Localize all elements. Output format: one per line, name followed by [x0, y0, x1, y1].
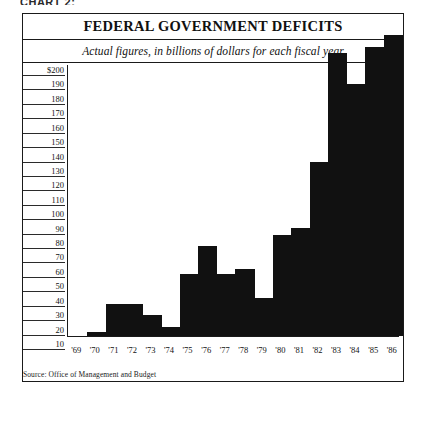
y-axis-tick-label: 100 [51, 210, 65, 219]
y-axis-tick-label: 180 [51, 95, 65, 104]
y-axis-tick-label: 190 [51, 80, 65, 89]
bar [310, 162, 329, 336]
chart-title-band: FEDERAL GOVERNMENT DEFICITS [23, 14, 403, 40]
y-axis-tick: 70 [23, 253, 65, 263]
x-axis-tick-label: '84 [345, 345, 364, 355]
y-axis-tick: 80 [23, 239, 65, 249]
y-axis-tick: 190 [23, 80, 65, 90]
x-axis-tick-label: '77 [215, 345, 234, 355]
y-axis-labels: $200190180170160150140130120110100908070… [23, 63, 67, 363]
y-axis-tick-label: 10 [56, 340, 66, 349]
y-axis-tick-label: 70 [56, 253, 66, 262]
chart-frame: FEDERAL GOVERNMENT DEFICITS Actual figur… [22, 13, 404, 382]
y-axis-tick: 20 [23, 326, 65, 336]
bar [124, 304, 143, 335]
y-axis-tick-label: $200 [47, 66, 65, 75]
bar [365, 47, 384, 335]
bar [217, 274, 236, 335]
y-axis-tick: 60 [23, 268, 65, 278]
bar [384, 35, 403, 336]
x-axis-tick-label: '70 [86, 345, 105, 355]
bar [347, 84, 366, 336]
x-axis-tick-label: '85 [364, 345, 383, 355]
y-axis-tick-label: 50 [56, 282, 66, 291]
x-axis-tick-label: '78 [234, 345, 253, 355]
x-axis-tick-label: '82 [308, 345, 327, 355]
y-axis-tick-label: 30 [56, 311, 66, 320]
y-axis-tick: 50 [23, 282, 65, 292]
y-axis-tick-label: 90 [56, 225, 66, 234]
bar [161, 327, 180, 335]
x-axis-tick-label: '86 [382, 345, 401, 355]
bar [198, 246, 217, 336]
x-axis-line [67, 336, 399, 337]
y-axis-tick-label: 120 [51, 181, 65, 190]
y-axis-tick: 150 [23, 138, 65, 148]
x-axis-tick-label: '73 [141, 345, 160, 355]
y-axis-tick-label: 140 [51, 153, 65, 162]
bar [106, 304, 125, 335]
y-axis-tick: 110 [23, 196, 65, 206]
y-axis-tick-label: 170 [51, 109, 65, 118]
y-axis-tick: 170 [23, 109, 65, 119]
x-axis-tick-label: '72 [123, 345, 142, 355]
y-axis-tick: 140 [23, 153, 65, 163]
bar [87, 332, 106, 336]
y-axis-tick-label: 40 [56, 297, 66, 306]
x-axis-tick-label: '69 [67, 345, 86, 355]
bar-series [68, 64, 399, 336]
y-axis-tick: 130 [23, 167, 65, 177]
x-axis-tick-label: '81 [290, 345, 309, 355]
bar [143, 315, 162, 335]
y-axis-tick: $200 [23, 66, 65, 76]
x-axis-tick-label: '74 [160, 345, 179, 355]
y-axis-tick-label: 20 [56, 326, 66, 335]
y-axis-tick: 100 [23, 210, 65, 220]
y-axis-tick-label: 160 [51, 124, 65, 133]
figure-caption: CHART 2: [20, 0, 75, 5]
y-axis-tick-label: 150 [51, 138, 65, 147]
y-axis-tick: 10 [23, 340, 65, 350]
chart-screenshot: CHART 2: FEDERAL GOVERNMENT DEFICITS Act… [0, 0, 422, 423]
x-axis-tick-label: '79 [253, 345, 272, 355]
chart-subtitle: Actual figures, in billions of dollars f… [82, 45, 344, 57]
y-axis-tick: 180 [23, 95, 65, 105]
y-axis-tick-label: 110 [52, 196, 65, 205]
x-axis-tick-label: '76 [197, 345, 216, 355]
x-axis-tick-label: '80 [271, 345, 290, 355]
bar [328, 53, 347, 336]
y-axis-tick-label: 80 [56, 239, 66, 248]
bar [273, 235, 292, 336]
x-axis-tick-label: '75 [178, 345, 197, 355]
plot-area: $200190180170160150140130120110100908070… [23, 63, 403, 381]
y-axis-tick: 90 [23, 225, 65, 235]
axis-lines [67, 63, 401, 381]
bar [235, 269, 254, 336]
bar [291, 228, 310, 335]
source-note: Source: Office of Management and Budget [23, 370, 156, 379]
y-axis-tick-label: 60 [56, 268, 66, 277]
x-axis-tick-label: '83 [327, 345, 346, 355]
y-axis-tick-label: 130 [51, 167, 65, 176]
x-axis-tick-label: '71 [104, 345, 123, 355]
bar [254, 298, 273, 336]
y-axis-tick: 40 [23, 297, 65, 307]
chart-title: FEDERAL GOVERNMENT DEFICITS [83, 18, 342, 35]
y-axis-tick: 30 [23, 311, 65, 321]
y-axis-tick: 160 [23, 124, 65, 134]
bar [180, 274, 199, 335]
x-axis-labels: '69'70'71'72'73'74'75'76'77'78'79'80'81'… [67, 341, 401, 355]
y-axis-tick: 120 [23, 181, 65, 191]
